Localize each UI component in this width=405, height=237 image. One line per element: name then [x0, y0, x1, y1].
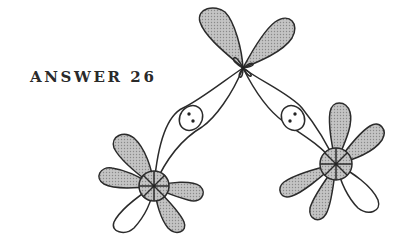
orbital-diagram [0, 0, 405, 237]
left-atom [99, 134, 203, 232]
central-atom [199, 8, 294, 77]
